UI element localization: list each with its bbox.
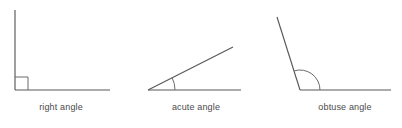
obtuse-angle-label: obtuse angle [318, 102, 371, 112]
angles-diagram: right angle acute angle obtuse angle [0, 0, 402, 128]
acute-angle-arc-marker [172, 78, 175, 90]
right-angle-label: right angle [39, 102, 83, 112]
figure-acute-angle: acute angle [148, 47, 241, 112]
figure-right-angle: right angle [15, 10, 110, 112]
angles-svg: right angle acute angle obtuse angle [0, 0, 402, 128]
obtuse-angle-slanted-ray [277, 17, 300, 90]
figure-obtuse-angle: obtuse angle [277, 17, 391, 112]
acute-angle-label: acute angle [172, 102, 220, 112]
right-angle-square-marker [15, 77, 28, 90]
obtuse-angle-arc-marker [294, 70, 320, 90]
acute-angle-slanted-ray [148, 47, 233, 90]
